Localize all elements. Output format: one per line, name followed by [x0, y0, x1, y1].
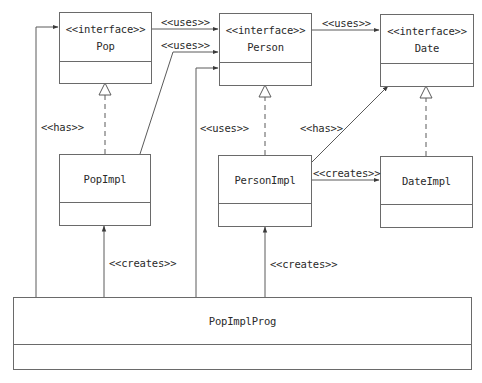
class-name: PopImplProg [209, 314, 276, 328]
prog-uses-person-line [196, 68, 218, 297]
class-members-compartment [60, 203, 150, 225]
class-name: Pop [96, 39, 114, 53]
class-members-compartment [220, 63, 311, 85]
class-box-pop: <<interface>> Pop [59, 12, 152, 84]
class-members-compartment [381, 64, 473, 86]
label-prog-has-pop: <<has>> [41, 121, 84, 133]
class-name: DateImpl [402, 174, 451, 188]
class-members-compartment [219, 204, 311, 226]
stereotype-label: <<interface>> [387, 24, 467, 38]
class-box-dateimpl: DateImpl [380, 156, 473, 228]
class-name: PersonImpl [234, 173, 295, 187]
label-prog-creates-popimpl: <<creates>> [109, 257, 176, 269]
stereotype-label: <<interface>> [66, 22, 146, 36]
class-name: PopImpl [84, 172, 127, 186]
class-name-compartment: <<interface>> Person [220, 14, 311, 63]
class-name-compartment: PersonImpl [219, 156, 311, 204]
class-box-personimpl: PersonImpl [218, 155, 312, 227]
class-name-compartment: PopImplProg [14, 298, 471, 345]
label-prog-uses-person: <<uses>> [200, 122, 249, 134]
realization-triangle-date [420, 86, 432, 98]
realization-triangle-pop [99, 83, 111, 95]
class-box-popimplprog: PopImplProg [13, 297, 472, 370]
class-name-compartment: <<interface>> Pop [60, 13, 151, 62]
label-personimpl-has-date: <<has>> [300, 122, 343, 134]
class-box-popimpl: PopImpl [59, 154, 151, 226]
class-name: Date [415, 41, 440, 55]
realization-triangle-person [259, 85, 271, 97]
class-box-date: <<interface>> Date [380, 14, 474, 87]
class-name-compartment: DateImpl [381, 157, 472, 205]
class-box-person: <<interface>> Person [219, 13, 312, 86]
label-popimpl-uses-person: <<uses>> [161, 39, 210, 51]
class-members-compartment [14, 345, 471, 369]
label-person-uses-date: <<uses>> [322, 17, 371, 29]
prog-has-pop-line [36, 27, 58, 297]
label-personimpl-creates-dateimpl: <<creates>> [313, 167, 380, 179]
class-members-compartment [381, 205, 472, 227]
label-prog-creates-personimpl: <<creates>> [270, 258, 337, 270]
label-pop-uses-person: <<uses>> [161, 16, 210, 28]
class-name-compartment: PopImpl [60, 155, 150, 203]
class-name: Person [247, 40, 284, 54]
stereotype-label: <<interface>> [226, 23, 306, 37]
class-name-compartment: <<interface>> Date [381, 15, 473, 64]
class-members-compartment [60, 62, 151, 83]
